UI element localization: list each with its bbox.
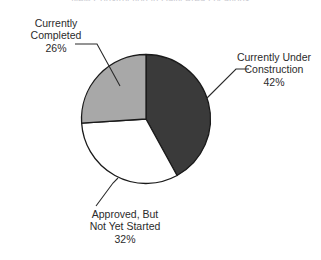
pie-slice-currently-completed[interactable] bbox=[82, 55, 146, 124]
callout-label-value: 42% bbox=[227, 76, 321, 88]
callout-label-value: 32% bbox=[52, 233, 198, 245]
callout-label-currently-completed: Currently Completed 26% bbox=[8, 17, 104, 54]
callout-label-value: 26% bbox=[8, 42, 104, 54]
callout-label-line1: Currently bbox=[8, 17, 104, 29]
callout-label-line1: Approved, But bbox=[52, 208, 198, 220]
callout-label-line2: Completed bbox=[8, 29, 104, 41]
callout-label-approved-not-yet-started: Approved, But Not Yet Started 32% bbox=[52, 208, 198, 245]
callout-label-line1: Currently Under bbox=[227, 51, 321, 63]
callout-label-line2: Construction bbox=[227, 63, 321, 75]
pie-chart-figure: New Construction in Daily Area Locations… bbox=[0, 0, 321, 260]
leader-line-approved-not-yet-started bbox=[96, 178, 118, 206]
pie-slices bbox=[82, 55, 211, 184]
callout-label-line2: Not Yet Started bbox=[52, 220, 198, 232]
callout-label-currently-under-construction: Currently Under Construction 42% bbox=[227, 51, 321, 88]
